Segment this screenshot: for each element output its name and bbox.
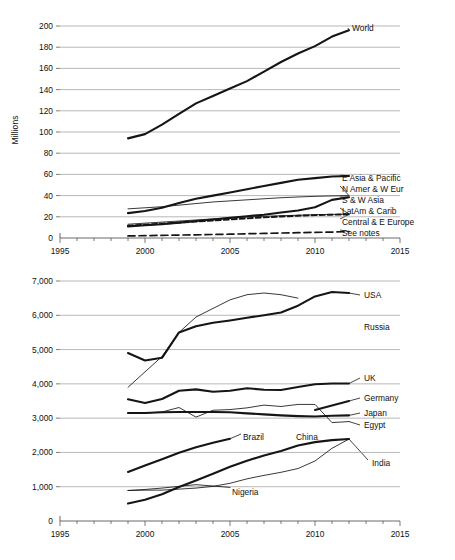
x-tick-label: 2015 — [391, 246, 410, 256]
series-label: Russia — [364, 322, 390, 332]
y-tick-label: 1,000 — [32, 482, 53, 492]
y-tick-label: 140 — [39, 85, 53, 95]
series-line — [128, 439, 230, 472]
y-tick-label: 180 — [39, 42, 53, 52]
bottom-chart-panel: Per 100,000 population 01,0002,0003,0004… — [0, 268, 455, 560]
y-tick-label: 7,000 — [32, 276, 53, 286]
series-label: S & W Asia — [342, 195, 384, 205]
y-tick-label: 5,000 — [32, 345, 53, 355]
label-leader-line — [349, 422, 360, 425]
label-leader-line — [349, 293, 360, 295]
y-tick-label: 0 — [48, 516, 53, 526]
y-tick-label: 200 — [39, 21, 53, 31]
x-tick-label: 1995 — [51, 529, 70, 539]
x-tick-label: 2010 — [306, 246, 325, 256]
label-leader-line — [230, 434, 241, 439]
series-label: Brazil — [243, 432, 264, 442]
bottom-chart-plot: 01,0002,0003,0004,0005,0006,0007,0001995… — [0, 268, 455, 560]
x-tick-label: 2000 — [136, 529, 155, 539]
series-label: China — [296, 432, 318, 442]
series-line — [128, 292, 349, 361]
x-tick-label: 2005 — [221, 529, 240, 539]
x-tick-label: 2010 — [306, 529, 325, 539]
x-tick-label: 1995 — [51, 246, 70, 256]
series-line — [315, 401, 349, 410]
label-leader-line — [349, 413, 360, 415]
series-label: Central & E Europe — [342, 217, 414, 227]
y-tick-label: 60 — [44, 169, 54, 179]
label-leader-line — [349, 398, 360, 401]
series-line — [128, 30, 349, 138]
y-tick-label: 0 — [48, 233, 53, 243]
y-tick-label: 40 — [44, 191, 54, 201]
y-tick-label: 120 — [39, 106, 53, 116]
label-leader-line — [349, 378, 360, 384]
series-line — [128, 384, 349, 404]
series-label: Germany — [364, 393, 399, 403]
x-tick-label: 2015 — [391, 529, 410, 539]
series-label: UK — [364, 373, 376, 383]
x-tick-label: 2000 — [136, 246, 155, 256]
y-tick-label: 2,000 — [32, 447, 53, 457]
label-leader-line — [349, 439, 368, 460]
series-label: Nigeria — [232, 487, 259, 497]
two-panel-line-chart-figure: Millions 0204060801001201401601802001995… — [0, 0, 455, 560]
x-tick-label: 2005 — [221, 246, 240, 256]
series-label: N Amer & W Eur — [342, 184, 404, 194]
series-label: See notes — [342, 228, 380, 238]
series-line — [128, 293, 298, 387]
series-label: Japan — [364, 408, 387, 418]
y-tick-label: 6,000 — [32, 310, 53, 320]
series-line — [128, 232, 349, 236]
y-tick-label: 3,000 — [32, 413, 53, 423]
y-tick-label: 100 — [39, 127, 53, 137]
y-tick-label: 160 — [39, 63, 53, 73]
top-chart-plot: 0204060801001201401601802001995200020052… — [0, 0, 455, 268]
series-label: LatAm & Carib — [342, 206, 397, 216]
y-tick-label: 4,000 — [32, 379, 53, 389]
series-label: Egypt — [364, 420, 386, 430]
top-chart-panel: Millions 0204060801001201401601802001995… — [0, 0, 455, 268]
y-tick-label: 20 — [44, 212, 54, 222]
series-label: E Asia & Pacific — [342, 173, 401, 183]
series-label: India — [372, 458, 391, 468]
series-label: USA — [364, 290, 382, 300]
series-label: World — [352, 23, 374, 33]
series-line — [128, 412, 349, 416]
y-tick-label: 80 — [44, 148, 54, 158]
